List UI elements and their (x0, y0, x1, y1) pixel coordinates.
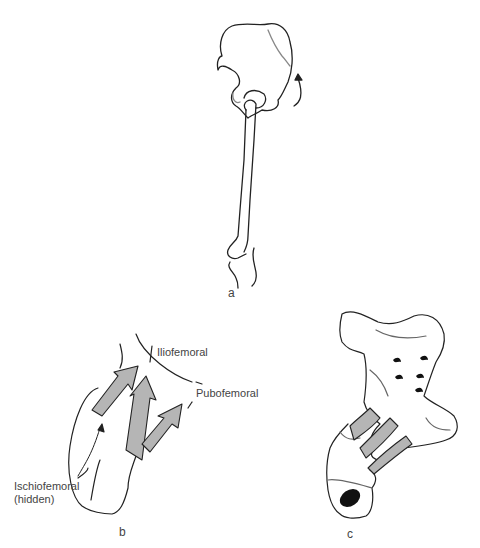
sacral-foramen (393, 358, 401, 362)
panel-c-drawing (0, 0, 480, 548)
panel-label-c: c (347, 527, 353, 541)
femoral-canal (336, 485, 363, 511)
